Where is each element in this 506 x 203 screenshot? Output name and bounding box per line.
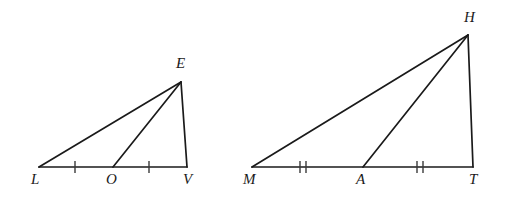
side-EV bbox=[181, 82, 187, 167]
cevian-HA bbox=[363, 35, 468, 167]
side-HT bbox=[468, 35, 473, 167]
vertex-label-T: T bbox=[469, 171, 479, 187]
triangle-lev: L E V O bbox=[30, 55, 194, 187]
side-LE bbox=[39, 82, 181, 167]
vertex-label-L: L bbox=[30, 171, 39, 187]
triangle-mht: M H T A bbox=[242, 9, 479, 187]
vertex-label-O: O bbox=[106, 171, 117, 187]
side-MH bbox=[252, 35, 468, 167]
vertex-label-H: H bbox=[463, 9, 476, 25]
cevian-EO bbox=[113, 82, 181, 167]
vertex-label-V: V bbox=[183, 171, 194, 187]
geometry-canvas: L E V O M H T A bbox=[0, 0, 506, 203]
vertex-label-E: E bbox=[175, 55, 185, 71]
vertex-label-M: M bbox=[242, 171, 257, 187]
vertex-label-A: A bbox=[355, 171, 366, 187]
geometry-figure: L E V O M H T A bbox=[0, 0, 506, 203]
